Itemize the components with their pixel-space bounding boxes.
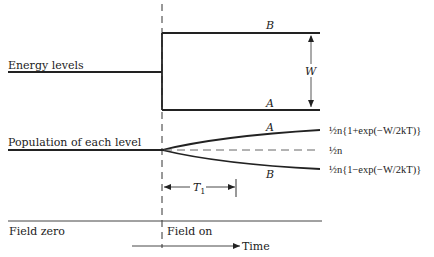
time-label: Time — [242, 240, 270, 253]
upper-population-formula: ½n{1+exp(−W/2kT)} — [329, 125, 421, 137]
level-b-label: B — [265, 19, 274, 32]
diagram-canvas: Energy levels B A W Population of each l… — [0, 0, 434, 257]
gap-w-label: W — [305, 65, 318, 78]
population-label: Population of each level — [8, 136, 142, 149]
field-on-label: Field on — [167, 225, 212, 238]
half-n-formula: ½n — [329, 145, 343, 156]
t1-label: T1 — [193, 181, 205, 196]
population-b-curve — [162, 150, 320, 169]
lower-population-formula: ½n{1−exp(−W/2kT)} — [329, 164, 421, 176]
field-zero-label: Field zero — [9, 225, 65, 238]
population-a-curve — [162, 130, 320, 150]
population-a-label: A — [265, 121, 274, 134]
energy-levels-label: Energy levels — [8, 59, 84, 72]
level-a-label: A — [265, 97, 274, 110]
population-b-label: B — [265, 168, 274, 181]
